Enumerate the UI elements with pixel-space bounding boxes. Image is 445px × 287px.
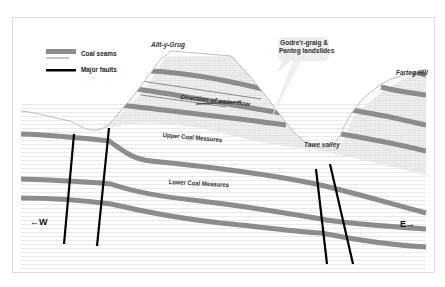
- place-farteg-hill: Farteg Hill: [396, 69, 428, 76]
- compass-east: E→: [400, 219, 415, 229]
- place-tawe-valley: Tawe valley: [304, 141, 340, 148]
- landslides-callout: Godre'r-graig & Panteg landslides: [279, 39, 329, 55]
- legend-coal-seams-label: Coal seams: [81, 49, 116, 58]
- legend-major-faults-label: Major faults: [81, 65, 117, 74]
- callout-line-2: Panteg landslides: [279, 47, 329, 55]
- cross-section-svg: [13, 18, 434, 272]
- callout-line-1: Godre'r-graig &: [279, 39, 329, 47]
- legend-fault-swatch: [46, 69, 76, 72]
- compass-west: ←W: [30, 217, 48, 227]
- place-allt-y-grug: Allt-y-Grug: [151, 41, 185, 48]
- diagram-frame: Coal seams Major faults Allt-y-Grug Fart…: [12, 17, 435, 273]
- legend-seam-swatch: [46, 49, 76, 54]
